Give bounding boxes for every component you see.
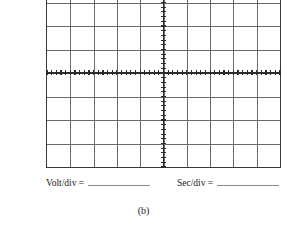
axis-tick-vertical	[161, 63, 166, 64]
axis-tick-vertical	[161, 115, 166, 116]
axis-tick-vertical	[161, 40, 166, 41]
axis-tick-horizontal	[233, 70, 234, 75]
axis-tick-vertical	[161, 77, 166, 78]
axis-tick-horizontal	[116, 70, 117, 75]
axis-tick-vertical	[161, 138, 166, 139]
axis-tick-vertical	[161, 7, 166, 8]
axis-tick-horizontal	[256, 70, 257, 75]
scale-settings-row: Volt/div = Sec/div =	[46, 175, 287, 191]
axis-tick-vertical	[161, 68, 166, 69]
axis-tick-horizontal	[242, 70, 243, 75]
axis-tick-vertical	[161, 30, 166, 31]
axis-tick-horizontal	[74, 70, 75, 75]
axis-tick-vertical	[161, 11, 166, 12]
axis-tick-horizontal	[223, 70, 224, 75]
axis-tick-horizontal	[65, 70, 66, 75]
axis-tick-vertical	[161, 143, 166, 144]
axis-tick-vertical	[161, 148, 166, 149]
axis-tick-horizontal	[172, 70, 173, 75]
axis-tick-vertical	[161, 49, 166, 50]
axis-tick-horizontal	[191, 70, 192, 75]
volt-per-div-label: Volt/div =	[46, 175, 84, 191]
axis-tick-vertical	[161, 54, 166, 55]
axis-tick-vertical	[161, 157, 166, 158]
axis-tick-horizontal	[60, 70, 61, 75]
axis-tick-horizontal	[46, 70, 47, 75]
volt-per-div-blank[interactable]	[88, 176, 150, 186]
axis-tick-horizontal	[270, 70, 271, 75]
axis-tick-horizontal	[279, 70, 280, 75]
axis-tick-horizontal	[251, 70, 252, 75]
axis-tick-vertical	[161, 82, 166, 83]
axis-tick-horizontal	[121, 70, 122, 75]
axis-tick-horizontal	[130, 70, 131, 75]
axis-tick-horizontal	[144, 70, 145, 75]
axis-tick-horizontal	[154, 70, 155, 75]
axis-tick-horizontal	[219, 70, 220, 75]
axis-tick-vertical	[161, 96, 166, 97]
axis-tick-horizontal	[177, 70, 178, 75]
axis-tick-horizontal	[149, 70, 150, 75]
axis-tick-vertical	[161, 72, 166, 73]
axis-tick-horizontal	[88, 70, 89, 75]
axis-tick-vertical	[161, 124, 166, 125]
axis-tick-vertical	[161, 152, 166, 153]
axis-tick-vertical	[161, 162, 166, 163]
axis-tick-horizontal	[98, 70, 99, 75]
axis-tick-horizontal	[214, 70, 215, 75]
sec-per-div-blank[interactable]	[217, 176, 279, 186]
axis-tick-horizontal	[261, 70, 262, 75]
axis-tick-horizontal	[247, 70, 248, 75]
oscilloscope-figure: Volt/div = Sec/div = (b)	[0, 0, 287, 228]
axis-tick-horizontal	[135, 70, 136, 75]
axis-tick-vertical	[161, 87, 166, 88]
axis-tick-horizontal	[158, 70, 159, 75]
axis-tick-horizontal	[112, 70, 113, 75]
axis-tick-horizontal	[140, 70, 141, 75]
axis-tick-horizontal	[237, 70, 238, 75]
axis-tick-horizontal	[84, 70, 85, 75]
axis-tick-horizontal	[182, 70, 183, 75]
axis-tick-vertical	[161, 2, 166, 3]
oscilloscope-graticule	[46, 0, 281, 168]
axis-tick-horizontal	[275, 70, 276, 75]
volt-per-div-field: Volt/div =	[46, 175, 150, 191]
axis-tick-horizontal	[51, 70, 52, 75]
axis-tick-horizontal	[186, 70, 187, 75]
axis-tick-vertical	[161, 91, 166, 92]
axis-tick-horizontal	[196, 70, 197, 75]
axis-tick-vertical	[161, 58, 166, 59]
axis-tick-horizontal	[79, 70, 80, 75]
axis-tick-horizontal	[102, 70, 103, 75]
axis-tick-vertical	[161, 21, 166, 22]
axis-tick-vertical	[161, 166, 166, 167]
axis-tick-horizontal	[200, 70, 201, 75]
axis-tick-vertical	[161, 134, 166, 135]
axis-tick-horizontal	[168, 70, 169, 75]
axis-tick-vertical	[161, 101, 166, 102]
axis-tick-horizontal	[210, 70, 211, 75]
axis-tick-vertical	[161, 129, 166, 130]
axis-tick-vertical	[161, 25, 166, 26]
axis-tick-horizontal	[126, 70, 127, 75]
axis-tick-vertical	[161, 35, 166, 36]
sec-per-div-label: Sec/div =	[177, 175, 213, 191]
figure-caption: (b)	[0, 205, 287, 216]
axis-tick-horizontal	[205, 70, 206, 75]
sec-per-div-field: Sec/div =	[177, 175, 279, 191]
axis-tick-horizontal	[228, 70, 229, 75]
axis-tick-vertical	[161, 44, 166, 45]
axis-tick-horizontal	[107, 70, 108, 75]
axis-tick-vertical	[161, 119, 166, 120]
axis-tick-horizontal	[265, 70, 266, 75]
axis-tick-horizontal	[56, 70, 57, 75]
axis-tick-vertical	[161, 105, 166, 106]
axis-tick-vertical	[161, 16, 166, 17]
axis-tick-vertical	[161, 110, 166, 111]
axis-tick-horizontal	[93, 70, 94, 75]
axis-tick-horizontal	[70, 70, 71, 75]
